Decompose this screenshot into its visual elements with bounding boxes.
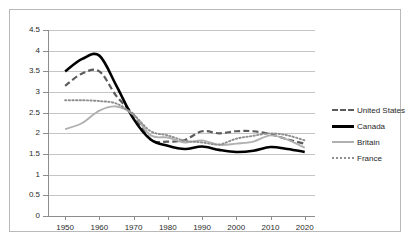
dashed-line-swatch: [332, 105, 354, 115]
series-lines-group: [48, 30, 315, 216]
series-line-canada: [65, 54, 305, 152]
legend-item[interactable]: United States: [332, 102, 410, 118]
x-axis-tick-label: 2020: [285, 223, 325, 232]
legend-item[interactable]: Britain: [332, 134, 410, 150]
solid-gray-line-swatch: [332, 137, 354, 147]
chart-legend: United StatesCanadaBritainFrance: [332, 102, 410, 166]
legend-item-label: Canada: [357, 122, 385, 131]
solid-black-line-swatch: [332, 121, 354, 131]
legend-item[interactable]: Canada: [332, 118, 410, 134]
dotted-line-swatch: [332, 153, 354, 163]
series-line-britain: [65, 106, 305, 147]
legend-item-label: France: [357, 154, 382, 163]
chart-frame: 00.511.522.533.544.5 1950196019701980199…: [9, 9, 401, 232]
series-line-france: [65, 100, 305, 144]
legend-item[interactable]: France: [332, 150, 410, 166]
legend-item-label: Britain: [357, 138, 380, 147]
legend-item-label: United States: [357, 106, 405, 115]
x-axis-line: [48, 216, 315, 217]
